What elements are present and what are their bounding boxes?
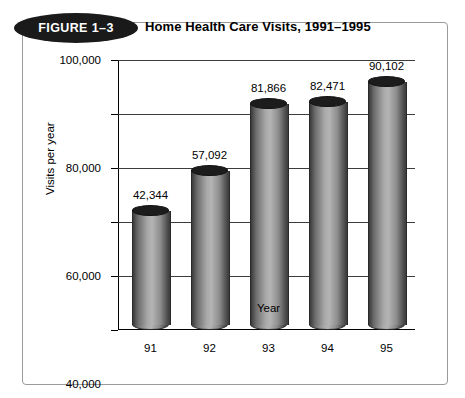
cylinder-cap xyxy=(132,205,169,216)
y-axis-tick: 60,000 xyxy=(111,168,118,169)
y-axis-tick-label: 60,000 xyxy=(66,270,101,282)
y-axis-title: Visits per year xyxy=(44,122,56,195)
bar-value-label: 82,471 xyxy=(310,80,345,92)
cylinder-body xyxy=(309,102,348,325)
x-axis-tick-label: 94 xyxy=(321,342,334,354)
chart-title: Home Health Care Visits, 1991–1995 xyxy=(145,19,371,34)
bar-94: 82,471 xyxy=(309,101,346,330)
bar-95: 90,102 xyxy=(368,81,405,330)
x-axis-tick-label: 91 xyxy=(144,342,157,354)
y-axis-tick: 100,000 xyxy=(111,60,118,61)
cylinder-cap xyxy=(250,98,287,109)
y-axis-tick-label: 80,000 xyxy=(66,162,101,174)
bar-value-label: 81,866 xyxy=(251,82,286,94)
bar-93: 81,866 xyxy=(250,103,287,330)
x-axis-tick-label: 92 xyxy=(203,342,216,354)
y-axis-tick: 20,000 xyxy=(111,276,118,277)
cylinder-body xyxy=(250,104,289,325)
bar-92: 57,092 xyxy=(191,170,228,330)
x-axis-title: Year xyxy=(257,302,280,314)
y-axis-tick: 0 xyxy=(111,330,118,331)
y-axis-tick: 40,000 xyxy=(111,222,118,223)
y-axis-tick-label: 40,000 xyxy=(66,378,101,390)
y-axis-line xyxy=(118,60,119,330)
cylinder-cap xyxy=(368,76,405,87)
cylinder-cap xyxy=(191,165,228,176)
cylinder-body xyxy=(368,82,407,325)
cylinder-body xyxy=(191,171,230,325)
bar-value-label: 90,102 xyxy=(369,60,404,72)
cylinder-body xyxy=(132,211,171,325)
plot-area: 020,00040,00060,00080,000100,000 42,3445… xyxy=(118,60,415,330)
x-axis-tick-label: 95 xyxy=(380,342,393,354)
bar-91: 42,344 xyxy=(132,210,169,330)
figure-number-label: FIGURE 1–3 xyxy=(38,21,114,35)
bar-value-label: 57,092 xyxy=(192,149,227,161)
x-axis-tick-label: 93 xyxy=(262,342,275,354)
bar-value-label: 42,344 xyxy=(133,189,168,201)
y-axis-tick: 80,000 xyxy=(111,114,118,115)
figure-number-badge: FIGURE 1–3 xyxy=(14,13,138,43)
y-axis-tick-label: 100,000 xyxy=(59,54,101,66)
